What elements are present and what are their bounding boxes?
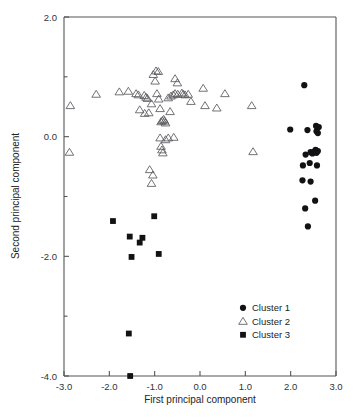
data-point-triangle xyxy=(132,90,141,97)
legend-entry-1[interactable]: Cluster 1 xyxy=(240,302,290,313)
data-point-triangle xyxy=(212,104,221,111)
data-point-triangle xyxy=(144,109,153,116)
legend-label: Cluster 3 xyxy=(252,329,290,340)
data-point-square xyxy=(129,254,135,260)
data-point-triangle xyxy=(199,84,208,91)
scatter-plot-figure: -3.0-2.0-1.00.01.02.03.0 -4.0-2.00.02.0 … xyxy=(0,0,360,420)
data-point-circle xyxy=(302,205,308,211)
data-point-triangle xyxy=(201,102,210,109)
data-point-square xyxy=(127,234,133,240)
data-point-circle xyxy=(312,198,318,204)
data-point-square xyxy=(151,213,157,219)
data-point-circle xyxy=(316,124,322,130)
data-point-square xyxy=(240,332,246,338)
data-point-triangle xyxy=(151,77,160,84)
data-point-circle xyxy=(304,127,310,133)
data-point-triangle xyxy=(239,317,248,324)
x-tick-label: 3.0 xyxy=(329,381,342,392)
x-tick-label: 1.0 xyxy=(239,381,252,392)
data-point-square xyxy=(140,235,146,241)
data-point-circle xyxy=(315,130,321,136)
data-point-circle xyxy=(305,223,311,229)
legend-label: Cluster 2 xyxy=(252,316,290,327)
legend-entry-3[interactable]: Cluster 3 xyxy=(240,329,290,340)
legend-label: Cluster 1 xyxy=(252,302,290,313)
y-axis-tick-labels: -4.0-2.00.02.0 xyxy=(41,12,57,382)
data-point-circle xyxy=(315,148,321,154)
data-point-circle xyxy=(240,305,246,311)
data-point-circle xyxy=(301,82,307,88)
y-tick-label: -4.0 xyxy=(41,371,57,382)
data-point-circle xyxy=(287,126,293,132)
data-point-triangle xyxy=(156,105,165,112)
data-point-circle xyxy=(300,162,306,168)
data-point-circle xyxy=(299,177,305,183)
data-point-triangle xyxy=(65,148,74,155)
series-cluster-1 xyxy=(287,82,322,229)
data-point-circle xyxy=(307,160,313,166)
series-cluster-3 xyxy=(110,213,162,379)
y-tick-label: 2.0 xyxy=(44,12,57,23)
data-point-triangle xyxy=(154,95,163,102)
x-tick-label: 0.0 xyxy=(193,381,206,392)
data-point-triangle xyxy=(173,79,182,86)
data-point-triangle xyxy=(149,171,158,178)
y-tick-label: -2.0 xyxy=(41,251,57,262)
data-point-triangle xyxy=(92,90,101,97)
data-point-triangle xyxy=(147,179,156,186)
legend-entry-2[interactable]: Cluster 2 xyxy=(239,316,290,327)
x-axis-tick-labels: -3.0-2.0-1.00.01.02.03.0 xyxy=(56,381,343,392)
data-point-triangle xyxy=(166,108,175,115)
data-point-circle xyxy=(314,162,320,168)
data-point-square xyxy=(126,331,132,337)
data-point-triangle xyxy=(66,102,75,109)
scatter-plot-canvas: -3.0-2.0-1.00.01.02.03.0 -4.0-2.00.02.0 … xyxy=(0,0,360,420)
y-axis-ticks xyxy=(64,17,69,376)
data-point-triangle xyxy=(135,106,144,113)
data-point-triangle xyxy=(124,87,133,94)
data-point-triangle xyxy=(187,97,196,104)
plot-frame xyxy=(64,17,336,376)
data-point-triangle xyxy=(249,148,258,155)
data-point-triangle xyxy=(169,133,178,140)
data-point-square xyxy=(110,218,116,224)
data-point-triangle xyxy=(161,136,170,143)
data-point-triangle xyxy=(153,90,162,97)
x-axis-ticks xyxy=(64,371,336,376)
data-point-triangle xyxy=(221,90,230,97)
y-tick-label: 0.0 xyxy=(44,131,57,142)
x-tick-label: 2.0 xyxy=(284,381,297,392)
data-point-square xyxy=(127,373,133,379)
data-point-triangle xyxy=(164,94,173,101)
data-point-triangle xyxy=(247,102,256,109)
data-point-circle xyxy=(308,178,314,184)
x-tick-label: -1.0 xyxy=(146,381,162,392)
data-point-square xyxy=(156,251,162,257)
x-tick-label: -3.0 xyxy=(56,381,72,392)
data-point-triangle xyxy=(157,142,166,149)
series-cluster-2 xyxy=(65,67,257,186)
y-axis-title: Second principal component xyxy=(10,133,21,259)
x-axis-title: First principal component xyxy=(144,394,256,405)
data-point-triangle xyxy=(115,88,124,95)
x-tick-label: -2.0 xyxy=(101,381,117,392)
plot-legend: Cluster 1Cluster 2Cluster 3 xyxy=(239,302,290,340)
